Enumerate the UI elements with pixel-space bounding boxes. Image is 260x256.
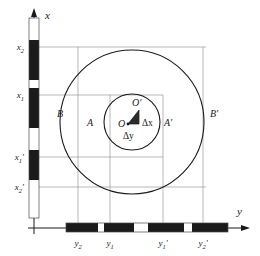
displacement-triangle <box>127 110 139 125</box>
y-band-segment-4 <box>148 223 184 232</box>
label-O-prime: O' <box>132 97 142 108</box>
y-tick-labels: y2y1y1′y2′ <box>73 238 208 250</box>
label-B-prime: B' <box>210 108 219 119</box>
y-band-segment-5 <box>184 223 192 232</box>
x-band-segment-6 <box>29 180 39 218</box>
y-tick-label-1: y1 <box>105 238 113 250</box>
y-band-segment-1 <box>98 223 104 232</box>
y-axis-band-scale <box>66 223 228 232</box>
y-band-segments <box>66 223 228 232</box>
y-axis-arrowhead <box>241 225 250 231</box>
x-tick-labels: x2x1x1′x2′ <box>14 42 25 194</box>
label-O: O <box>118 118 125 129</box>
y-tick-label-0: y2 <box>73 238 82 250</box>
label-A-prime: A' <box>163 117 173 128</box>
x-band-segment-0 <box>29 18 39 40</box>
y-band-segment-0 <box>66 223 98 232</box>
label-A: A <box>86 117 94 128</box>
diagram-canvas: x y B A A' B' O O' Δx Δy x2x1x1′x2′ y2y1… <box>0 0 260 256</box>
x-band-segment-1 <box>29 40 39 80</box>
y-axis-label: y <box>236 205 242 217</box>
label-delta-y: Δy <box>123 131 134 141</box>
y-tick-label-3: y2′ <box>197 238 208 250</box>
x-axis-band-scale <box>29 18 39 218</box>
origin-point-marker <box>127 123 130 126</box>
x-band-segments <box>29 18 39 218</box>
x-axis-label: x <box>44 9 50 21</box>
label-delta-x: Δx <box>142 118 153 128</box>
x-tick-label-0: x2 <box>16 42 25 54</box>
x-tick-label-1: x1 <box>16 90 24 102</box>
x-tick-label-2: x1′ <box>14 152 25 164</box>
delta-triangle-fill <box>128 110 139 124</box>
x-band-segment-4 <box>29 128 39 150</box>
label-B: B <box>57 108 63 119</box>
x-axis-arrowhead <box>31 8 37 17</box>
y-band-segment-3 <box>134 223 148 232</box>
x-band-segment-2 <box>29 80 39 88</box>
y-band-segment-2 <box>104 223 134 232</box>
y-band-segment-6 <box>192 223 228 232</box>
vertical-gridlines <box>78 47 203 228</box>
y-tick-label-2: y1′ <box>157 238 168 250</box>
figure-container: x y B A A' B' O O' Δx Δy x2x1x1′x2′ y2y1… <box>0 0 260 256</box>
x-band-segment-5 <box>29 150 39 180</box>
x-tick-label-3: x2′ <box>14 182 25 194</box>
x-band-segment-3 <box>29 88 39 128</box>
